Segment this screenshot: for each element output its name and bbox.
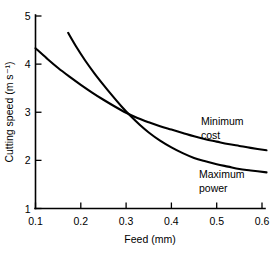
annotation-maximum-power: Maximum power: [199, 168, 245, 194]
x-axis-title: Feed (mm): [124, 233, 175, 245]
chart-plot-svg: 12345 0.10.20.30.40.50.6 Feed (mm) Cutti…: [0, 0, 275, 254]
y-tick-label: 4: [25, 58, 31, 70]
x-tick-label: 0.5: [209, 215, 224, 227]
annotation-minimum-cost-line1: Minimum: [201, 115, 244, 127]
chart-figure: 12345 0.10.20.30.40.50.6 Feed (mm) Cutti…: [0, 0, 275, 254]
y-tick-label: 5: [25, 10, 31, 22]
y-axis-title: Cutting speed (m s⁻¹): [3, 61, 15, 162]
y-tick-label: 3: [25, 106, 31, 118]
x-tick-label: 0.2: [73, 215, 88, 227]
annotation-minimum-cost: Minimum cost: [201, 115, 244, 141]
annotation-minimum-cost-line2: cost: [201, 129, 220, 141]
series-maximum-power-curve: [68, 33, 266, 173]
x-tick-label: 0.1: [28, 215, 43, 227]
x-tick-label: 0.6: [255, 215, 270, 227]
annotation-maximum-power-line1: Maximum: [199, 168, 245, 180]
y-tick-label: 1: [25, 203, 31, 215]
x-tick-label: 0.4: [164, 215, 179, 227]
annotation-maximum-power-line2: power: [199, 182, 228, 194]
y-tick-label: 2: [25, 154, 31, 166]
x-tick-label: 0.3: [119, 215, 134, 227]
x-axis-ticks: 0.10.20.30.40.50.6: [28, 203, 269, 227]
y-axis-ticks: 12345: [25, 10, 42, 215]
